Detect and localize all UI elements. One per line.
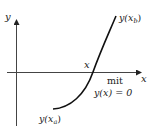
root-note-mit: mit	[107, 75, 123, 86]
end-label-close: )	[138, 12, 142, 23]
end-label-main: y(x	[118, 12, 134, 23]
x-axis-label: x	[141, 73, 147, 84]
y-axis-label: y	[4, 11, 11, 22]
root-label: x	[84, 59, 90, 70]
root-diagram: y x x mit y(x) = 0 y(xa) y(xb)	[0, 0, 154, 137]
start-label-main: y(x	[38, 113, 54, 124]
end-point-label: y(xb)	[118, 12, 141, 25]
root-note-condition: y(x) = 0	[93, 87, 132, 98]
start-point-label: y(xa)	[38, 113, 61, 126]
start-label-close: )	[57, 113, 61, 124]
